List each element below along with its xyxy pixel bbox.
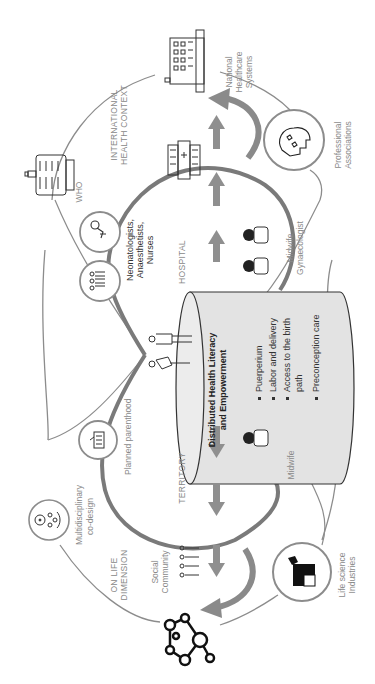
molecule-network-icon: [165, 614, 214, 665]
svg-text:Life science: Life science: [337, 552, 347, 597]
svg-text:Nurses: Nurses: [145, 235, 155, 264]
svg-text:Midwife: Midwife: [285, 233, 295, 262]
svg-text:Community: Community: [160, 550, 170, 594]
curved-arrow-top-head: [208, 88, 230, 110]
svg-text:Access to the birth: Access to the birth: [282, 318, 292, 392]
svg-text:WHO: WHO: [74, 181, 84, 202]
svg-text:co-design: co-design: [85, 498, 95, 535]
svg-text:Multidisciplinary: Multidisciplinary: [74, 484, 84, 545]
svg-text:TERRITORY: TERRITORY: [177, 452, 187, 504]
team-node: [80, 261, 120, 301]
svg-text:DIMENSION: DIMENSION: [119, 550, 129, 601]
arrow-down-icon: [208, 483, 225, 516]
multidisciplinary-node: [29, 500, 69, 540]
svg-text:Distributed Health Literacy: Distributed Health Literacy: [207, 333, 217, 448]
health-literacy-diagram: National Healthcare Systems Professional…: [0, 0, 375, 684]
svg-text:Preconception care: Preconception care: [311, 314, 321, 392]
svg-text:HOSPITAL: HOSPITAL: [177, 240, 187, 284]
arrow-down-icon: [208, 545, 225, 577]
svg-text:and Empowerment: and Empowerment: [218, 350, 228, 431]
svg-text:Neonatologists,: Neonatologists,: [125, 219, 135, 281]
arrow-up-icon: [208, 172, 225, 206]
capitol-building-icon: [25, 155, 74, 195]
svg-text:INTERNATIONAL: INTERNATIONAL: [109, 89, 119, 160]
people-row-icon: [180, 546, 199, 577]
planned-parenthood-node: [79, 421, 117, 459]
svg-text:Midwife: Midwife: [286, 450, 296, 479]
arrow-up-icon: [208, 230, 225, 262]
svg-text:National: National: [224, 56, 234, 87]
svg-text:Anaesthetists,: Anaesthetists,: [135, 222, 145, 279]
svg-text:ON LIFE: ON LIFE: [109, 557, 119, 592]
svg-text:Industries: Industries: [347, 557, 357, 594]
svg-text:HEALTH CONTEXT: HEALTH CONTEXT: [119, 85, 129, 165]
central-cylinder: [176, 292, 354, 484]
svg-text:Social: Social: [150, 560, 160, 583]
professional-associations-node: [264, 110, 324, 170]
svg-text:path: path: [294, 374, 304, 392]
svg-text:Associations: Associations: [343, 121, 353, 169]
curved-arrow-top-icon: [225, 98, 258, 158]
neonatologists-node: [80, 212, 120, 252]
svg-text:Planned parenthood: Planned parenthood: [123, 398, 133, 475]
svg-text:Professional: Professional: [333, 122, 343, 169]
doctor-icon: [243, 227, 268, 243]
doctor-icon: [243, 258, 268, 274]
curved-arrow-bottom-icon: [215, 549, 253, 608]
arrow-up-icon: [208, 115, 225, 149]
svg-text:Healthcare: Healthcare: [234, 51, 244, 92]
svg-text:Gynaecologist: Gynaecologist: [295, 220, 305, 275]
curved-arrow-bottom-head: [200, 598, 222, 618]
life-science-node: [273, 543, 331, 601]
svg-text:Puerperium: Puerperium: [254, 345, 264, 392]
svg-text:Labor and delivery: Labor and delivery: [268, 317, 278, 392]
building-icon: [165, 30, 204, 92]
svg-text:Systems: Systems: [244, 56, 254, 89]
